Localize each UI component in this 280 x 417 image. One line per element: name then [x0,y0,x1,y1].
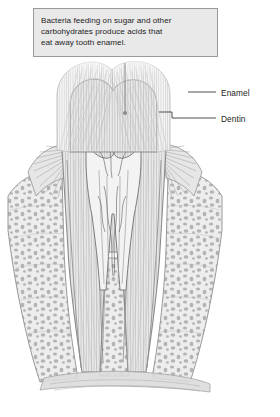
label-dentin: Dentin [221,114,246,124]
callout-box: Bacteria feeding on sugar and other carb… [33,8,218,57]
tooth-cross-section-diagram [0,0,280,417]
illustration-canvas: Bacteria feeding on sugar and other carb… [0,0,280,417]
label-enamel: Enamel [221,88,250,98]
callout-text: Bacteria feeding on sugar and other carb… [41,15,210,49]
cropped-bottom-caption [0,409,280,417]
